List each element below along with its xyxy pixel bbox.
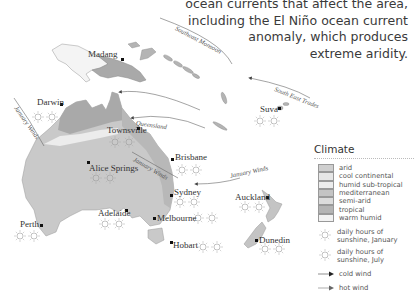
legend-item-warm-humid: warm humid (314, 214, 414, 222)
legend-item-hot-wind: hot wind (314, 284, 414, 292)
city-label-hobart: Hobart (173, 240, 198, 250)
queensland-cold-arrow (120, 91, 200, 110)
swatch-cool-continental (318, 172, 334, 180)
legend-label: daily hours of sunshine, July (337, 248, 414, 264)
city-label-perth: Perth (20, 219, 39, 229)
city-label-madang: Madang (88, 49, 118, 59)
swatch-arid (318, 164, 334, 172)
legend-label: cool continental (339, 172, 393, 180)
legend-label: tropical (339, 206, 364, 214)
legend-item-sunshine-january: daily hours of sunshine, January (314, 228, 414, 244)
legend-item-cool-continental: cool continental (314, 172, 414, 180)
swatch-tropical (318, 205, 334, 213)
hot-wind-arrow-icon (318, 285, 334, 291)
legend-item-tropical: tropical (314, 205, 414, 213)
legend-item-humid-sub-tropical: humid sub-tropical (314, 181, 414, 189)
legend-item-arid: arid (314, 164, 414, 172)
sun-icon (318, 248, 332, 262)
legend-item-mediterranean: mediterranean (314, 189, 414, 197)
city-label-suva: Suva (260, 104, 278, 114)
cold-wind-arrow-icon (318, 271, 334, 277)
legend-item-semi-arid: semi-arid (314, 197, 414, 205)
city-label-dunedin: Dunedin (259, 235, 290, 245)
swatch-humid-sub-tropical (318, 181, 334, 189)
swatch-mediterranean (318, 189, 334, 197)
city-label-auckland: Auckland (235, 192, 270, 202)
legend-title: Climate (314, 143, 414, 159)
swatch-warm-humid (318, 214, 334, 222)
legend-label: hot wind (339, 284, 368, 292)
city-label-alice-springs: Alice Springs (89, 163, 138, 173)
legend-label: daily hours of sunshine, January (337, 228, 414, 244)
legend-label: mediterranean (339, 189, 389, 197)
intro-line-2: including the El Niño ocean current (108, 13, 408, 30)
city-label-adelaide: Adelaide (98, 208, 130, 218)
city-label-sydney: Sydney (174, 187, 201, 197)
sun-icon (318, 228, 332, 242)
january-winds-tasman-arrow (196, 178, 240, 184)
legend-label: humid sub-tropical (339, 181, 403, 189)
legend-label: cold wind (339, 270, 371, 278)
legend-label: arid (339, 164, 352, 172)
legend-label: warm humid (339, 214, 382, 222)
swatch-semi-arid (318, 197, 334, 205)
legend-item-cold-wind: cold wind (314, 270, 414, 278)
legend: Climate arid cool continental humid sub-… (314, 143, 414, 292)
legend-label: semi-arid (339, 197, 371, 205)
city-label-melbourne: Melbourne (157, 213, 197, 223)
legend-item-sunshine-july: daily hours of sunshine, July (314, 248, 414, 264)
intro-line-4: extreme aridity. (108, 46, 408, 63)
intro-line-1: ocean currents that affect the area, (108, 0, 408, 13)
city-label-darwin: Darwin (37, 97, 64, 107)
city-label-brisbane: Brisbane (175, 152, 207, 162)
intro-line-3: anomaly, which produces (108, 29, 408, 46)
intro-text: ocean currents that affect the area, inc… (108, 0, 408, 62)
